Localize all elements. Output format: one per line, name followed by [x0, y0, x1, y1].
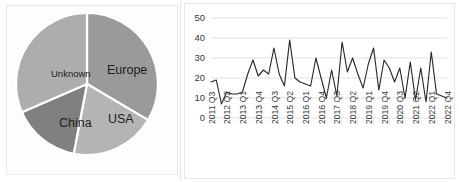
x-axis-tick-label: 2012 Q2: [222, 91, 232, 124]
x-axis-tick-label: 2022 Q4: [443, 91, 453, 124]
line-chart-panel: 010203040502011 Q32012 Q22013 Q12013 Q42…: [184, 3, 455, 179]
figure-root: Europe USA China Unknown 010203040502011…: [0, 0, 459, 182]
y-axis-tick-label: 10: [194, 92, 205, 103]
line-chart-svg: 010203040502011 Q32012 Q22013 Q12013 Q42…: [185, 4, 454, 178]
x-axis-tick-label: 2013 Q1: [238, 91, 248, 124]
x-axis-tick-label: 2013 Q4: [254, 91, 264, 124]
x-axis-tick-label: 2011 Q3: [207, 91, 217, 124]
y-axis-tick-label: 40: [194, 32, 205, 43]
panel-divider: [180, 2, 181, 180]
x-axis-tick-label: 2021 Q2: [411, 91, 421, 124]
x-axis-tick-label: 2016 Q1: [301, 91, 311, 124]
pie-chart-svg: [7, 6, 177, 174]
x-axis-tick-label: 2014 Q3: [270, 91, 280, 124]
x-axis-tick-label: 2019 Q4: [380, 91, 390, 124]
y-axis-tick-label: 50: [194, 12, 205, 23]
x-axis-tick-label: 2016 Q4: [317, 91, 327, 124]
x-axis-tick-label: 2015 Q2: [285, 91, 295, 124]
x-axis-tick-label: 2018 Q2: [348, 91, 358, 124]
y-axis-tick-label: 0: [200, 112, 205, 123]
x-axis-tick-label: 2019 Q1: [364, 91, 374, 124]
y-axis-tick-label: 30: [194, 52, 205, 63]
pie-chart-panel: Europe USA China Unknown: [6, 5, 178, 175]
y-axis-tick-label: 20: [194, 72, 205, 83]
x-axis-tick-label: 2022 Q1: [427, 91, 437, 124]
x-axis-tick-label: 2020 Q3: [395, 91, 405, 124]
x-axis-tick-label: 2017 Q3: [332, 91, 342, 124]
